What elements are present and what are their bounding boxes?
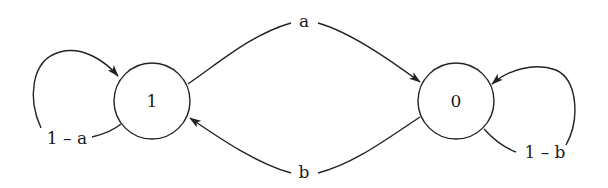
self-loop-arrow-node-1 [33,51,118,128]
edge-1-to-0: a [188,11,420,84]
edge-1-to-1: 1 – a [33,51,121,148]
edge-label-1-minus-a: 1 – a [47,128,87,148]
edge-label-1-minus-b: 1 – b [524,142,565,162]
self-loop-tail-node-0 [484,129,516,152]
node-0: 0 [418,63,494,139]
node-0-label: 0 [451,91,462,111]
state-diagram: 1 – a a b 1 – b 1 0 [0,0,608,188]
edge-0-to-1-arrow-segment [190,118,291,173]
edge-0-to-0: 1 – b [484,67,575,162]
edge-0-to-1: b [190,117,420,182]
edge-label-a: a [299,11,309,31]
node-1: 1 [114,63,190,139]
self-loop-arrow-node-0 [492,67,575,145]
edge-1-to-0-first-segment [188,23,291,84]
edge-label-b: b [299,162,310,182]
node-1-label: 1 [147,91,158,111]
self-loop-tail-node-1 [92,124,121,137]
edge-1-to-0-arrow-segment [318,23,420,82]
edge-0-to-1-first-segment [318,117,420,173]
